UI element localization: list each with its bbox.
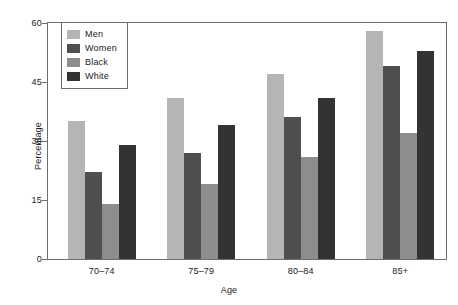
legend-item: Men <box>67 28 122 41</box>
bar <box>218 125 235 259</box>
x-axis-title: Age <box>0 285 458 295</box>
legend: MenWomenBlackWhite <box>61 22 128 89</box>
x-tick-label: 85+ <box>392 266 408 276</box>
bar <box>417 51 434 259</box>
bar <box>383 66 400 259</box>
bar <box>400 133 417 259</box>
legend-item: Women <box>67 42 122 55</box>
x-tick-label: 80–84 <box>288 266 314 276</box>
bar-chart: 015304560 Percentage 70–7475–7980–8485+ … <box>0 0 458 305</box>
x-tick-label: 75–79 <box>188 266 214 276</box>
y-axis-title: Percentage <box>33 86 43 206</box>
legend-label: Women <box>85 44 117 53</box>
bar <box>366 31 383 259</box>
y-tick-label: 60 <box>32 18 42 28</box>
y-tick-mark <box>42 200 47 201</box>
bar <box>68 121 85 259</box>
x-tick-label: 70–74 <box>89 266 115 276</box>
legend-swatch-icon <box>67 44 80 53</box>
legend-item: White <box>67 70 122 83</box>
legend-label: Black <box>85 58 108 67</box>
legend-label: Men <box>85 30 103 39</box>
bar <box>284 117 301 259</box>
bar <box>102 204 119 259</box>
legend-swatch-icon <box>67 58 80 67</box>
bar <box>85 172 102 259</box>
y-tick-mark <box>42 259 47 260</box>
bar <box>119 145 136 259</box>
bar <box>318 98 335 259</box>
bar <box>184 153 201 259</box>
bar <box>167 98 184 259</box>
bar <box>301 157 318 259</box>
bar <box>267 74 284 259</box>
legend-swatch-icon <box>67 30 80 39</box>
y-tick-mark <box>42 23 47 24</box>
legend-item: Black <box>67 56 122 69</box>
legend-swatch-icon <box>67 72 80 81</box>
y-tick-mark <box>42 82 47 83</box>
y-tick-mark <box>42 141 47 142</box>
bar <box>201 184 218 259</box>
legend-label: White <box>85 72 109 81</box>
